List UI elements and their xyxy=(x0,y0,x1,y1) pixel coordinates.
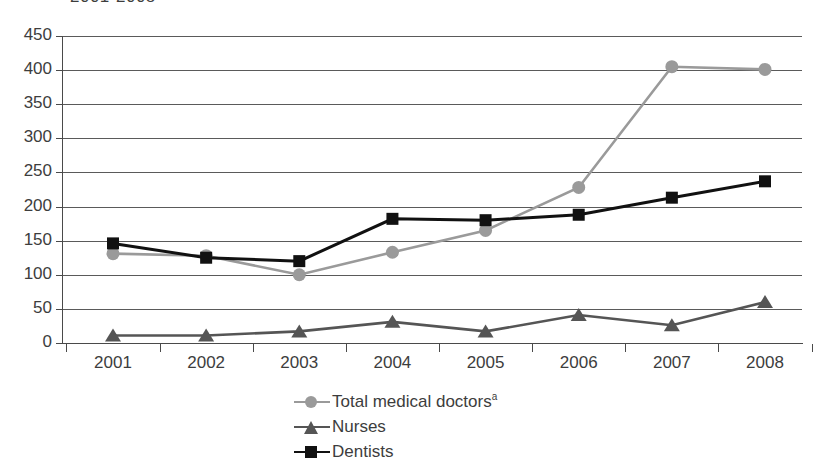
y-tick-mark xyxy=(56,172,63,173)
legend-label-nurses: Nurses xyxy=(332,416,386,437)
x-tick-mark xyxy=(66,344,67,352)
y-tick-mark xyxy=(56,309,63,310)
x-tick-mark xyxy=(346,344,347,352)
x-tick-label: 2008 xyxy=(725,353,805,373)
y-tick-label: 0 xyxy=(0,332,52,352)
legend-item-total-medical-doctors[interactable]: Total medical doctorsa xyxy=(292,389,592,414)
y-tick-mark xyxy=(56,241,63,242)
x-tick-mark xyxy=(160,344,161,352)
x-tick-label: 2001 xyxy=(73,353,153,373)
y-tick-label: 100 xyxy=(0,264,52,284)
x-tick-mark xyxy=(718,344,719,352)
y-tick-mark xyxy=(56,343,63,344)
y-tick-label: 150 xyxy=(0,230,52,250)
x-tick-label: 2004 xyxy=(352,353,432,373)
x-tick-label: 2003 xyxy=(259,353,339,373)
y-tick-label: 250 xyxy=(0,161,52,181)
y-tick-mark xyxy=(56,36,63,37)
gridline xyxy=(62,207,802,208)
legend-label-dentists: Dentists xyxy=(332,441,393,462)
x-axis-line xyxy=(62,343,803,344)
x-tick-mark xyxy=(625,344,626,352)
gridline xyxy=(62,172,802,173)
y-tick-label: 400 xyxy=(0,59,52,79)
gridline xyxy=(62,138,802,139)
chart-title: 2001-2008 xyxy=(70,0,156,7)
legend-marker-circle-icon xyxy=(292,392,332,412)
plot-area xyxy=(62,36,802,343)
y-tick-label: 350 xyxy=(0,93,52,113)
y-tick-label: 50 xyxy=(0,298,52,318)
x-tick-label: 2002 xyxy=(166,353,246,373)
legend-item-dentists[interactable]: Dentists xyxy=(292,439,592,464)
gridline xyxy=(62,241,802,242)
x-tick-mark xyxy=(253,344,254,352)
y-axis-line xyxy=(62,36,63,344)
chart-screenshot: 2001-2008 Total medical doctorsa Nurses xyxy=(0,0,813,476)
legend-marker-square-icon xyxy=(292,442,332,462)
gridline xyxy=(62,309,802,310)
gridline xyxy=(62,104,802,105)
y-tick-mark xyxy=(56,70,63,71)
y-tick-mark xyxy=(56,104,63,105)
y-tick-label: 300 xyxy=(0,127,52,147)
legend-item-nurses[interactable]: Nurses xyxy=(292,414,592,439)
gridline xyxy=(62,70,802,71)
gridline xyxy=(62,36,802,37)
legend-marker-triangle-icon xyxy=(292,417,332,437)
x-tick-mark xyxy=(439,344,440,352)
y-tick-mark xyxy=(56,275,63,276)
chart-legend: Total medical doctorsa Nurses Dentists xyxy=(292,389,592,464)
y-tick-mark xyxy=(56,138,63,139)
x-tick-label: 2007 xyxy=(632,353,712,373)
gridline xyxy=(62,275,802,276)
x-tick-label: 2005 xyxy=(446,353,526,373)
x-tick-label: 2006 xyxy=(539,353,619,373)
y-tick-mark xyxy=(56,207,63,208)
x-tick-mark xyxy=(532,344,533,352)
legend-label-total-medical-doctors: Total medical doctorsa xyxy=(332,391,497,412)
y-tick-label: 200 xyxy=(0,196,52,216)
y-tick-label: 450 xyxy=(0,25,52,45)
